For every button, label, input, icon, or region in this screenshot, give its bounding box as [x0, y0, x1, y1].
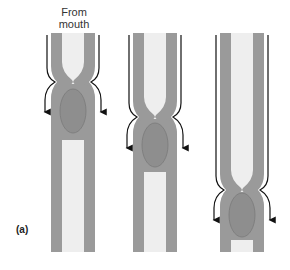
- esophagus-stage-3: [214, 33, 270, 252]
- esophagus-stage-2: [127, 33, 183, 252]
- peristalsis-diagram: [0, 0, 290, 270]
- esophagus-stage-1: [45, 33, 101, 252]
- food-bolus: [229, 193, 255, 237]
- from-label-line1: From: [52, 6, 96, 18]
- panel-label: (a): [16, 224, 28, 235]
- food-bolus: [60, 89, 86, 133]
- food-bolus: [142, 123, 168, 167]
- lumen: [62, 33, 84, 252]
- from-label-line2: mouth: [52, 18, 96, 30]
- from-mouth-label: From mouth: [52, 6, 96, 30]
